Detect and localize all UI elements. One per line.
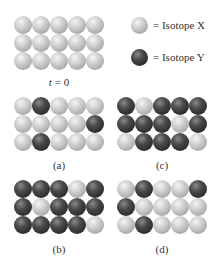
isotope-x-sphere-icon: [68, 97, 86, 115]
grid-d: [117, 180, 207, 234]
label-t0-rest: = 0: [52, 76, 69, 88]
isotope-y-sphere-icon: [171, 133, 189, 151]
isotope-x-sphere-icon: [32, 34, 50, 52]
isotope-x-sphere-icon: [117, 180, 135, 198]
label-a: (a): [14, 159, 104, 171]
isotope-x-sphere-icon: [14, 34, 32, 52]
label-d: (d): [117, 243, 207, 255]
isotope-y-sphere-icon: [32, 133, 50, 151]
isotope-y-sphere-icon: [135, 180, 153, 198]
isotope-y-sphere-icon: [50, 216, 68, 234]
isotope-x-sphere-icon: [50, 115, 68, 133]
isotope-y-sphere-icon: [50, 180, 68, 198]
isotope-y-sphere-icon: [117, 115, 135, 133]
isotope-x-sphere-icon: [86, 52, 104, 70]
isotope-y-sphere-icon: [135, 216, 153, 234]
isotope-y-sphere-icon: [32, 97, 50, 115]
isotope-x-sphere-icon: [135, 198, 153, 216]
isotope-x-sphere-icon: [50, 34, 68, 52]
isotope-x-sphere-icon: [68, 34, 86, 52]
isotope-y-sphere-icon: [171, 97, 189, 115]
isotope-x-sphere-icon: [68, 115, 86, 133]
isotope-y-sphere-icon: [189, 115, 207, 133]
isotope-x-sphere-icon: [153, 198, 171, 216]
isotope-x-sphere-icon: [117, 216, 135, 234]
isotope-y-sphere-icon: [153, 97, 171, 115]
isotope-x-sphere-icon: [153, 180, 171, 198]
isotope-x-sphere-icon: [189, 133, 207, 151]
isotope-y-sphere-icon: [68, 198, 86, 216]
isotope-x-sphere-icon: [14, 133, 32, 151]
isotope-x-sphere-icon: [14, 97, 32, 115]
isotope-x-sphere-icon: [86, 97, 104, 115]
isotope-x-sphere-icon: [153, 216, 171, 234]
isotope-x-sphere-icon: [50, 97, 68, 115]
isotope-y-sphere-icon: [131, 49, 148, 66]
legend-label-x: = Isotope X: [153, 19, 205, 31]
isotope-x-sphere-icon: [86, 16, 104, 34]
isotope-x-sphere-icon: [131, 17, 148, 34]
isotope-x-sphere-icon: [32, 52, 50, 70]
isotope-x-sphere-icon: [189, 216, 207, 234]
isotope-y-sphere-icon: [68, 216, 86, 234]
isotope-x-sphere-icon: [117, 133, 135, 151]
isotope-y-sphere-icon: [86, 180, 104, 198]
isotope-y-sphere-icon: [86, 198, 104, 216]
isotope-y-sphere-icon: [32, 216, 50, 234]
grid-c: [117, 97, 207, 151]
label-c: (c): [117, 159, 207, 171]
isotope-x-sphere-icon: [171, 216, 189, 234]
isotope-y-sphere-icon: [189, 97, 207, 115]
isotope-x-sphere-icon: [14, 52, 32, 70]
isotope-y-sphere-icon: [135, 133, 153, 151]
grid-a: [14, 97, 104, 151]
isotope-y-sphere-icon: [14, 216, 32, 234]
isotope-y-sphere-icon: [135, 115, 153, 133]
isotope-x-sphere-icon: [32, 115, 50, 133]
isotope-x-sphere-icon: [50, 16, 68, 34]
isotope-x-sphere-icon: [189, 198, 207, 216]
isotope-x-sphere-icon: [32, 198, 50, 216]
label-b: (b): [14, 243, 104, 255]
isotope-y-sphere-icon: [153, 133, 171, 151]
isotope-x-sphere-icon: [50, 133, 68, 151]
isotope-y-sphere-icon: [117, 97, 135, 115]
isotope-y-sphere-icon: [86, 115, 104, 133]
isotope-x-sphere-icon: [171, 115, 189, 133]
isotope-x-sphere-icon: [68, 180, 86, 198]
isotope-x-sphere-icon: [68, 16, 86, 34]
isotope-x-sphere-icon: [171, 198, 189, 216]
legend-label-y: = Isotope Y: [153, 51, 205, 63]
legend-isotope-y: = Isotope Y: [131, 48, 205, 66]
isotope-x-sphere-icon: [86, 216, 104, 234]
isotope-x-sphere-icon: [14, 16, 32, 34]
isotope-x-sphere-icon: [14, 115, 32, 133]
isotope-y-sphere-icon: [117, 198, 135, 216]
isotope-x-sphere-icon: [32, 16, 50, 34]
isotope-x-sphere-icon: [50, 52, 68, 70]
isotope-y-sphere-icon: [32, 180, 50, 198]
isotope-x-sphere-icon: [86, 133, 104, 151]
isotope-x-sphere-icon: [135, 97, 153, 115]
isotope-y-sphere-icon: [14, 180, 32, 198]
isotope-x-sphere-icon: [68, 133, 86, 151]
isotope-y-sphere-icon: [14, 198, 32, 216]
isotope-y-sphere-icon: [189, 180, 207, 198]
isotope-x-sphere-icon: [68, 52, 86, 70]
label-t0: t = 0: [14, 76, 104, 88]
isotope-x-sphere-icon: [86, 34, 104, 52]
grid-b: [14, 180, 104, 234]
isotope-x-sphere-icon: [171, 180, 189, 198]
grid-t0: [14, 16, 104, 70]
isotope-y-sphere-icon: [50, 198, 68, 216]
isotope-y-sphere-icon: [153, 115, 171, 133]
legend-isotope-x: = Isotope X: [131, 16, 205, 34]
